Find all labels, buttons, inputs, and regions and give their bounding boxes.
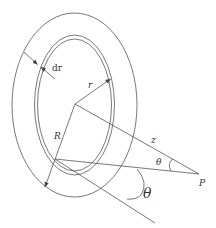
ring-geometry-diagram — [0, 0, 216, 228]
point-P-label: P — [199, 179, 205, 188]
z-label: z — [151, 136, 156, 145]
r-label: r — [88, 81, 92, 90]
r-radius-arrow — [75, 79, 111, 104]
theta-small-label: θ — [156, 158, 161, 167]
dr-label: dr — [52, 64, 62, 73]
dr-arrow-outer — [24, 52, 38, 65]
ring-to-P-line — [55, 159, 199, 174]
parallel-axis-line — [55, 159, 155, 223]
R-label: R — [54, 132, 61, 141]
theta-arc-small — [169, 159, 172, 171]
theta-large-label: θ — [143, 186, 151, 200]
theta-arc-large — [127, 169, 144, 199]
